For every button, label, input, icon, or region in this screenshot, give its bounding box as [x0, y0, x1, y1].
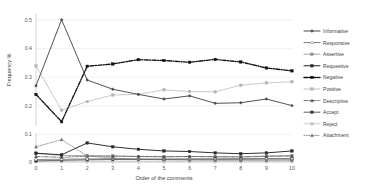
chart-legend: InformativeResponsiveAssertiveRequestive… [300, 0, 375, 193]
legend-label: Attachment [323, 132, 349, 138]
legend-label: Positive [323, 86, 341, 92]
legend-label: Accept [323, 109, 339, 115]
legend-item-informative[interactable] [304, 30, 320, 33]
x-tick-label: 7 [214, 165, 217, 171]
legend-item-positive[interactable] [304, 88, 320, 91]
x-tick-label: 0 [35, 165, 38, 171]
x-tick-label: 2 [86, 165, 89, 171]
x-tick-label: 9 [265, 165, 268, 171]
legend-item-assertive[interactable] [304, 53, 320, 56]
legend-item-accept[interactable] [304, 111, 320, 114]
plot-area: 0.20.30.40.500.1012345678910Order of the… [0, 0, 300, 193]
x-tick-label: 3 [111, 165, 114, 171]
legend-item-requestive[interactable] [304, 65, 320, 68]
legend-item-responsive[interactable] [304, 41, 320, 44]
legend-label: Responsive [323, 40, 350, 46]
legend-item-descriptive[interactable] [304, 99, 320, 102]
x-tick-label: 1 [60, 165, 63, 171]
line-chart-svg: 0.20.30.40.500.1012345678910Order of the… [0, 0, 300, 193]
legend-label: Assertive [323, 51, 344, 57]
legend-item-attachment[interactable] [304, 134, 320, 137]
legend-label: Informative [323, 28, 348, 34]
legend-item-negative[interactable] [304, 76, 320, 79]
x-tick-label: 5 [163, 165, 166, 171]
y-tick-label-upper: 0.4 [25, 45, 32, 51]
x-tick-label: 8 [239, 165, 242, 171]
y-tick-label-lower: 0.1 [25, 131, 32, 137]
series-positive [35, 65, 294, 112]
series-requestive [35, 142, 294, 156]
x-tick-label: 6 [188, 165, 191, 171]
legend-label: Descriptive [323, 98, 348, 104]
legend-label: Reject [323, 121, 338, 127]
y-tick-label-upper: 0.5 [25, 17, 32, 23]
legend-item-reject[interactable] [304, 123, 320, 126]
y-tick-label-upper: 0.3 [25, 74, 32, 80]
y-axis-title: Frequency % [6, 54, 12, 87]
legend-label: Requestive [323, 63, 349, 69]
x-tick-label: 10 [289, 165, 295, 171]
y-tick-label-upper: 0.2 [25, 103, 32, 109]
x-tick-label: 4 [137, 165, 140, 171]
x-axis-title: Order of the comments [135, 175, 192, 181]
chart-root: 0.20.30.40.500.1012345678910Order of the… [0, 0, 375, 193]
legend-label: Negative [323, 74, 343, 80]
y-tick-label-lower: 0 [29, 159, 32, 165]
legend-svg: InformativeResponsiveAssertiveRequestive… [300, 0, 375, 193]
series-informative [35, 18, 294, 107]
